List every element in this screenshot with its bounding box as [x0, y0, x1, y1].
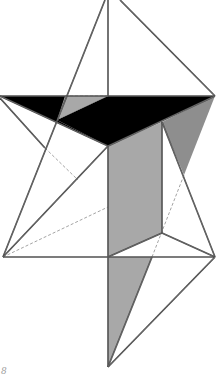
hidden-edge [45, 148, 78, 180]
edge [120, 0, 215, 96]
edge [3, 146, 108, 257]
geometric-figure [0, 0, 219, 386]
page-number: 8 [1, 366, 7, 376]
hidden-edge [3, 207, 108, 257]
